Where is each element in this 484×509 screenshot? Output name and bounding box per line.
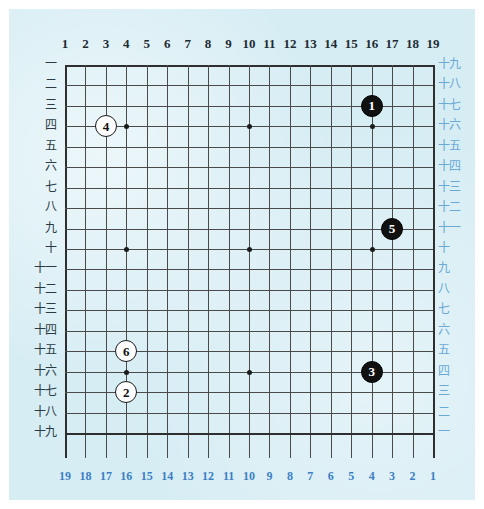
row-label-right-13: 七 bbox=[438, 303, 468, 315]
grid-line-vertical bbox=[188, 65, 189, 458]
star-point bbox=[370, 247, 375, 252]
column-label-top-3: 3 bbox=[95, 37, 117, 50]
star-point bbox=[124, 370, 129, 375]
grid-line-vertical bbox=[167, 65, 168, 458]
column-label-top-8: 8 bbox=[197, 37, 219, 50]
stone-number: 1 bbox=[368, 99, 375, 112]
column-label-bottom-18: 2 bbox=[402, 470, 424, 482]
row-label-left-10: 十 bbox=[26, 242, 56, 254]
row-label-right-4: 十六 bbox=[438, 119, 468, 131]
grid-line-vertical bbox=[290, 65, 291, 458]
row-label-right-8: 十二 bbox=[438, 201, 468, 213]
grid-line-vertical bbox=[269, 65, 270, 458]
row-label-left-4: 四 bbox=[26, 119, 56, 131]
column-label-bottom-1: 19 bbox=[54, 470, 76, 482]
grid-line-vertical bbox=[65, 65, 67, 458]
row-label-right-15: 五 bbox=[438, 344, 468, 356]
row-label-left-6: 六 bbox=[26, 160, 56, 172]
column-label-bottom-11: 9 bbox=[258, 470, 280, 482]
column-label-top-14: 14 bbox=[320, 37, 342, 50]
column-label-bottom-19: 1 bbox=[422, 470, 444, 482]
column-label-bottom-3: 17 bbox=[95, 470, 117, 482]
column-label-bottom-8: 12 bbox=[197, 470, 219, 482]
stone-black-5[interactable]: 5 bbox=[381, 218, 403, 240]
row-label-left-7: 七 bbox=[26, 181, 56, 193]
star-point bbox=[247, 247, 252, 252]
column-label-bottom-4: 16 bbox=[115, 470, 137, 482]
row-label-left-18: 十八 bbox=[26, 406, 56, 418]
stone-black-1[interactable]: 1 bbox=[361, 95, 383, 117]
paper-panel: 12345678910111213141516171819 1918171615… bbox=[9, 9, 475, 500]
column-label-top-9: 9 bbox=[218, 37, 240, 50]
grid-line-vertical bbox=[392, 65, 393, 458]
row-label-right-16: 四 bbox=[438, 365, 468, 377]
row-label-right-9: 十一 bbox=[438, 222, 468, 234]
grid-line-vertical bbox=[413, 65, 414, 458]
stone-number: 3 bbox=[368, 365, 375, 378]
row-label-left-13: 十三 bbox=[26, 303, 56, 315]
row-label-left-1: 一 bbox=[26, 58, 56, 70]
row-label-left-14: 十四 bbox=[26, 324, 56, 336]
grid-line-vertical bbox=[85, 65, 86, 458]
grid-line-vertical bbox=[433, 65, 435, 458]
stone-black-3[interactable]: 3 bbox=[361, 361, 383, 383]
column-label-top-12: 12 bbox=[279, 37, 301, 50]
grid-line-vertical bbox=[331, 65, 332, 458]
column-label-bottom-7: 13 bbox=[177, 470, 199, 482]
grid-line-vertical bbox=[208, 65, 209, 458]
column-label-top-13: 13 bbox=[299, 37, 321, 50]
column-label-bottom-6: 14 bbox=[156, 470, 178, 482]
row-label-right-17: 三 bbox=[438, 385, 468, 397]
stone-number: 5 bbox=[389, 222, 396, 235]
column-label-top-5: 5 bbox=[136, 37, 158, 50]
column-label-bottom-15: 5 bbox=[340, 470, 362, 482]
row-label-left-9: 九 bbox=[26, 222, 56, 234]
column-label-bottom-12: 8 bbox=[279, 470, 301, 482]
row-label-right-2: 十八 bbox=[438, 78, 468, 90]
row-label-left-19: 十九 bbox=[26, 426, 56, 438]
row-label-right-18: 二 bbox=[438, 406, 468, 418]
stone-white-4[interactable]: 4 bbox=[95, 115, 117, 137]
column-label-top-11: 11 bbox=[258, 37, 280, 50]
stone-white-6[interactable]: 6 bbox=[115, 340, 137, 362]
column-label-top-1: 1 bbox=[54, 37, 76, 50]
column-label-top-4: 4 bbox=[115, 37, 137, 50]
row-label-left-5: 五 bbox=[26, 140, 56, 152]
column-label-top-7: 7 bbox=[177, 37, 199, 50]
row-label-right-11: 九 bbox=[438, 262, 468, 274]
column-label-bottom-17: 3 bbox=[381, 470, 403, 482]
column-label-bottom-14: 6 bbox=[320, 470, 342, 482]
star-point bbox=[370, 124, 375, 129]
row-label-left-3: 三 bbox=[26, 99, 56, 111]
column-label-top-17: 17 bbox=[381, 37, 403, 50]
column-label-top-16: 16 bbox=[361, 37, 383, 50]
star-point bbox=[124, 247, 129, 252]
row-label-left-17: 十七 bbox=[26, 385, 56, 397]
column-label-bottom-16: 4 bbox=[361, 470, 383, 482]
row-label-right-6: 十四 bbox=[438, 160, 468, 172]
row-label-left-15: 十五 bbox=[26, 344, 56, 356]
board-grid[interactable]: 123456 bbox=[65, 65, 433, 458]
column-label-bottom-13: 7 bbox=[299, 470, 321, 482]
row-label-right-7: 十三 bbox=[438, 181, 468, 193]
row-label-left-8: 八 bbox=[26, 201, 56, 213]
column-label-bottom-2: 18 bbox=[74, 470, 96, 482]
grid-line-vertical bbox=[147, 65, 148, 458]
grid-line-horizontal bbox=[65, 413, 433, 414]
column-label-top-10: 10 bbox=[238, 37, 260, 50]
row-label-left-12: 十二 bbox=[26, 283, 56, 295]
stone-white-2[interactable]: 2 bbox=[115, 381, 137, 403]
stone-number: 2 bbox=[123, 386, 130, 399]
column-label-bottom-5: 15 bbox=[136, 470, 158, 482]
column-label-top-6: 6 bbox=[156, 37, 178, 50]
grid-line-horizontal bbox=[65, 269, 433, 270]
grid-line-horizontal bbox=[65, 290, 433, 291]
column-label-top-15: 15 bbox=[340, 37, 362, 50]
column-label-bottom-9: 11 bbox=[218, 470, 240, 482]
grid-line-vertical bbox=[310, 65, 311, 458]
row-label-right-14: 六 bbox=[438, 324, 468, 336]
grid-line-horizontal bbox=[65, 331, 433, 332]
row-label-right-3: 十七 bbox=[438, 99, 468, 111]
column-label-bottom-10: 10 bbox=[238, 470, 260, 482]
row-label-left-11: 十一 bbox=[26, 262, 56, 274]
